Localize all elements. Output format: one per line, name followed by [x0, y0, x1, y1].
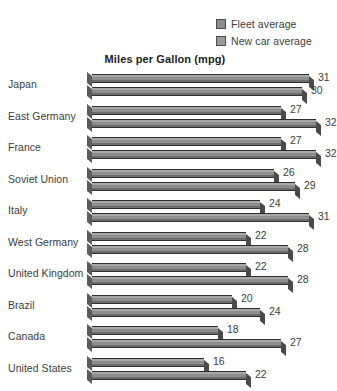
bar-shade	[92, 112, 281, 114]
legend-item-fleet-average: Fleet average	[216, 17, 312, 30]
bar-group: 3130	[92, 70, 330, 102]
bar-value-new-car-average: 22	[255, 368, 267, 380]
bar-shade	[92, 93, 302, 95]
bar-highlight	[92, 246, 288, 248]
bar-value-fleet-average: 24	[269, 197, 281, 209]
bar-value-fleet-average: 27	[290, 103, 302, 115]
bar-fleet-average	[92, 295, 232, 304]
bar-shade	[92, 364, 204, 366]
bar-fleet-average	[92, 200, 260, 209]
bar-highlight	[92, 296, 232, 298]
bar-group: 1827	[92, 322, 330, 354]
chart-legend: Fleet average New car average	[216, 17, 312, 47]
chart-row: Italy2431	[0, 196, 330, 228]
bar-shade	[92, 206, 260, 208]
bar-fleet-average	[92, 169, 274, 178]
bar-shade	[92, 219, 309, 221]
bar-value-new-car-average: 30	[311, 84, 323, 96]
bar-group: 2228	[92, 228, 330, 260]
category-label: Canada	[8, 330, 45, 342]
plot-area: Japan3130East Germany2732France2732Sovie…	[0, 70, 330, 385]
bar-highlight	[92, 201, 260, 203]
bar-shade	[92, 251, 288, 253]
bar-value-new-car-average: 24	[269, 305, 281, 317]
bar-shade	[92, 301, 232, 303]
bar-value-new-car-average: 28	[297, 242, 309, 254]
bar-shade	[92, 314, 260, 316]
bar-highlight	[92, 88, 302, 90]
bar-highlight	[92, 309, 260, 311]
legend-swatch-new-car-average	[216, 36, 226, 46]
bar-group: 1622	[92, 354, 330, 386]
bar-new-car-average	[92, 87, 302, 96]
bar-group: 2228	[92, 259, 330, 291]
bar-highlight	[92, 170, 274, 172]
bar-value-fleet-average: 26	[283, 166, 295, 178]
bar-shade	[92, 143, 281, 145]
chart-row: East Germany2732	[0, 102, 330, 134]
bar-shade	[92, 345, 281, 347]
category-label: France	[8, 141, 41, 153]
bar-fleet-average	[92, 137, 281, 146]
bar-highlight	[92, 264, 246, 266]
bar-value-new-car-average: 31	[318, 210, 330, 222]
bar-end-cap	[246, 373, 251, 388]
bar-highlight	[92, 327, 218, 329]
category-label: Soviet Union	[8, 173, 68, 185]
bar-highlight	[92, 183, 295, 185]
category-label: United States	[8, 362, 72, 374]
chart-row: France2732	[0, 133, 330, 165]
category-label: United Kingdom	[8, 267, 83, 279]
bar-group: 2629	[92, 165, 330, 197]
bar-shade	[92, 332, 218, 334]
bar-group: 2732	[92, 133, 330, 165]
bar-value-new-car-average: 32	[325, 116, 337, 128]
bar-new-car-average	[92, 308, 260, 317]
bar-fleet-average	[92, 232, 246, 241]
bar-shade	[92, 125, 316, 127]
bar-shade	[92, 238, 246, 240]
bar-highlight	[92, 277, 288, 279]
bar-highlight	[92, 214, 309, 216]
bar-shade	[92, 269, 246, 271]
bar-fleet-average	[92, 74, 309, 83]
bar-new-car-average	[92, 182, 295, 191]
bar-fleet-average	[92, 326, 218, 335]
category-label: East Germany	[8, 110, 76, 122]
legend-label-fleet-average: Fleet average	[231, 18, 297, 30]
bar-value-fleet-average: 27	[290, 134, 302, 146]
bar-highlight	[92, 120, 316, 122]
bar-new-car-average	[92, 245, 288, 254]
bar-shade	[92, 175, 274, 177]
bar-highlight	[92, 233, 246, 235]
bar-value-fleet-average: 20	[241, 292, 253, 304]
bar-group: 2732	[92, 102, 330, 134]
legend-item-new-car-average: New car average	[216, 34, 312, 47]
category-label: Brazil	[8, 299, 35, 311]
chart-row: Canada1827	[0, 322, 330, 354]
bar-value-fleet-average: 31	[318, 71, 330, 83]
bar-new-car-average	[92, 119, 316, 128]
bar-new-car-average	[92, 371, 246, 380]
bar-fleet-average	[92, 358, 204, 367]
bar-group: 2024	[92, 291, 330, 323]
legend-label-new-car-average: New car average	[231, 35, 312, 47]
bar-highlight	[92, 151, 316, 153]
bar-new-car-average	[92, 339, 281, 348]
bar-group: 2431	[92, 196, 330, 228]
bar-highlight	[92, 372, 246, 374]
bar-value-new-car-average: 29	[304, 179, 316, 191]
category-label: West Germany	[8, 236, 78, 248]
bar-shade	[92, 377, 246, 379]
chart-row: United States1622	[0, 354, 330, 386]
bar-highlight	[92, 138, 281, 140]
bar-value-fleet-average: 16	[213, 355, 225, 367]
chart-row: West Germany2228	[0, 228, 330, 260]
bar-value-new-car-average: 28	[297, 273, 309, 285]
bar-fleet-average	[92, 263, 246, 272]
chart-title: Miles per Gallon (mpg)	[0, 53, 330, 65]
bar-new-car-average	[92, 276, 288, 285]
chart-row: United Kingdom2228	[0, 259, 330, 291]
category-label: Italy	[8, 204, 28, 216]
